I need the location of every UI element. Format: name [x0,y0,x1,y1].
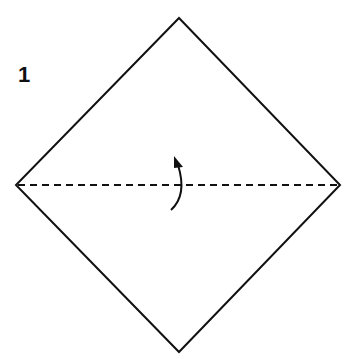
origami-diagram [0,0,355,359]
curved-arrow-icon [171,156,183,210]
